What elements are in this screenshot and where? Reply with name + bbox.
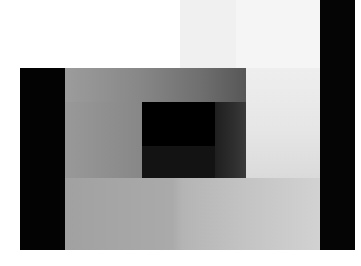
pixelated-image-canvas bbox=[0, 0, 361, 266]
field-left-column bbox=[65, 102, 142, 178]
inner-black-core bbox=[142, 102, 215, 146]
inner-dark-lower bbox=[142, 146, 215, 178]
top-light-band-left bbox=[180, 0, 236, 68]
left-black-bar bbox=[20, 68, 65, 250]
field-upper-band bbox=[65, 68, 246, 102]
inner-dark-right bbox=[215, 102, 246, 178]
field-lower-band bbox=[65, 178, 320, 250]
field-right-column bbox=[246, 68, 320, 178]
right-black-bar bbox=[320, 0, 355, 250]
top-light-band-right bbox=[236, 0, 320, 68]
